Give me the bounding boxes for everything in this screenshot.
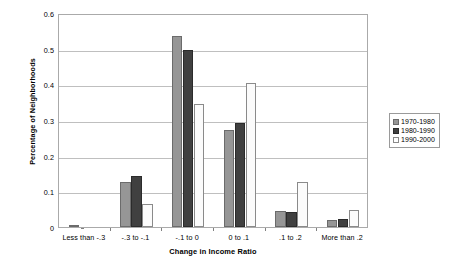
plot-area xyxy=(58,14,368,228)
y-axis-tick-label: 0 xyxy=(26,224,54,233)
x-axis-tick-mark xyxy=(265,228,266,231)
legend-item-label: 1970-1980 xyxy=(401,118,435,125)
bar-group xyxy=(111,15,163,227)
bar xyxy=(275,211,286,227)
bar xyxy=(297,182,308,227)
bar xyxy=(338,219,349,227)
bar xyxy=(69,225,80,227)
x-axis-title: Change in Income Ratio xyxy=(58,247,368,256)
bar xyxy=(131,176,142,227)
legend-item: 1990-2000 xyxy=(393,135,435,144)
bar xyxy=(224,130,235,227)
bar xyxy=(172,36,183,227)
bar xyxy=(142,204,153,227)
bar-group xyxy=(214,15,266,227)
bar xyxy=(246,83,257,227)
y-axis-tick-label: 0.3 xyxy=(26,117,54,126)
legend-swatch-icon xyxy=(393,137,399,143)
bar xyxy=(286,212,297,227)
x-axis-tick-label: .1 to .2 xyxy=(279,233,302,242)
x-axis-tick-mark xyxy=(213,228,214,231)
legend-swatch-icon xyxy=(393,128,399,134)
x-axis-tick-mark xyxy=(316,228,317,231)
legend-swatch-icon xyxy=(393,119,399,125)
x-axis-tick-label: More than .2 xyxy=(321,233,363,242)
plot-inner xyxy=(59,15,367,227)
y-axis-tick-label: 0.1 xyxy=(26,188,54,197)
y-axis-tick-label: 0.6 xyxy=(26,10,54,19)
legend-item: 1970-1980 xyxy=(393,117,435,126)
bar xyxy=(235,123,246,227)
x-axis-tick-label: -.3 to -.1 xyxy=(122,233,150,242)
y-axis-tick-label: 0.2 xyxy=(26,152,54,161)
legend-item-label: 1990-2000 xyxy=(401,136,435,143)
chart-legend: 1970-19801980-19901990-2000 xyxy=(389,113,440,148)
bar-group xyxy=(59,15,111,227)
bar xyxy=(120,182,131,227)
y-axis-tick-labels: 00.10.20.30.40.50.6 xyxy=(26,14,54,228)
bar xyxy=(327,220,338,227)
bar xyxy=(183,50,194,227)
y-axis-tick-label: 0.5 xyxy=(26,45,54,54)
x-axis-tick-label: 0 to .1 xyxy=(228,233,249,242)
bar-group xyxy=(317,15,369,227)
bar-group xyxy=(162,15,214,227)
legend-item-label: 1980-1990 xyxy=(401,127,435,134)
x-axis-tick-label: Less than -.3 xyxy=(62,233,105,242)
bar xyxy=(194,104,205,227)
x-axis-tick-mark xyxy=(110,228,111,231)
x-axis-tick-label: -.1 to 0 xyxy=(176,233,199,242)
y-axis-tick-mark xyxy=(81,228,84,229)
bar-chart: Percentage of Neighborhoods 00.10.20.30.… xyxy=(0,0,463,276)
bar xyxy=(349,210,360,227)
bar-group xyxy=(266,15,318,227)
y-axis-tick-label: 0.4 xyxy=(26,81,54,90)
x-axis-tick-mark xyxy=(161,228,162,231)
legend-item: 1980-1990 xyxy=(393,126,435,135)
